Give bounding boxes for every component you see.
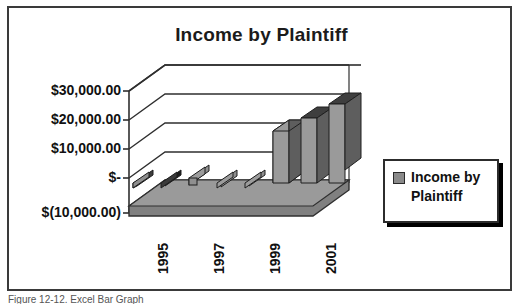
x-axis-label-1997: 1997 (211, 243, 227, 274)
y-axis-label-30000: $30,000.00 (17, 82, 121, 98)
y-axis-label-neg10000: $(10,000.00) (11, 204, 121, 220)
plot-area: $30,000.00 $20,000.00 $10,000.00 $- $(10… (9, 8, 514, 293)
screenshot-root: Income by Plaintiff (0, 0, 524, 304)
legend-swatch-income-by-plaintiff (393, 172, 405, 184)
x-axis-label-1999: 1999 (267, 243, 283, 274)
bar-1999 (273, 120, 305, 183)
x-axis-label-2001: 2001 (323, 243, 339, 274)
y-axis-ticks (123, 91, 129, 213)
bar-2001 (329, 93, 361, 183)
bar-2000 (301, 107, 333, 183)
y-axis-label-20000: $20,000.00 (17, 111, 121, 127)
x-axis-label-1995: 1995 (155, 243, 171, 274)
figure-caption: Figure 12-12. Excel Bar Graph (8, 294, 308, 304)
legend-box[interactable]: Income by Plaintiff (383, 159, 499, 223)
y-axis-label-10000: $10,000.00 (17, 140, 121, 156)
chart-frame: Income by Plaintiff (7, 6, 512, 291)
legend-label-line1: Income by (411, 169, 480, 186)
legend-label-line2: Plaintiff (411, 188, 462, 205)
y-axis-label-zero: $- (17, 169, 121, 185)
